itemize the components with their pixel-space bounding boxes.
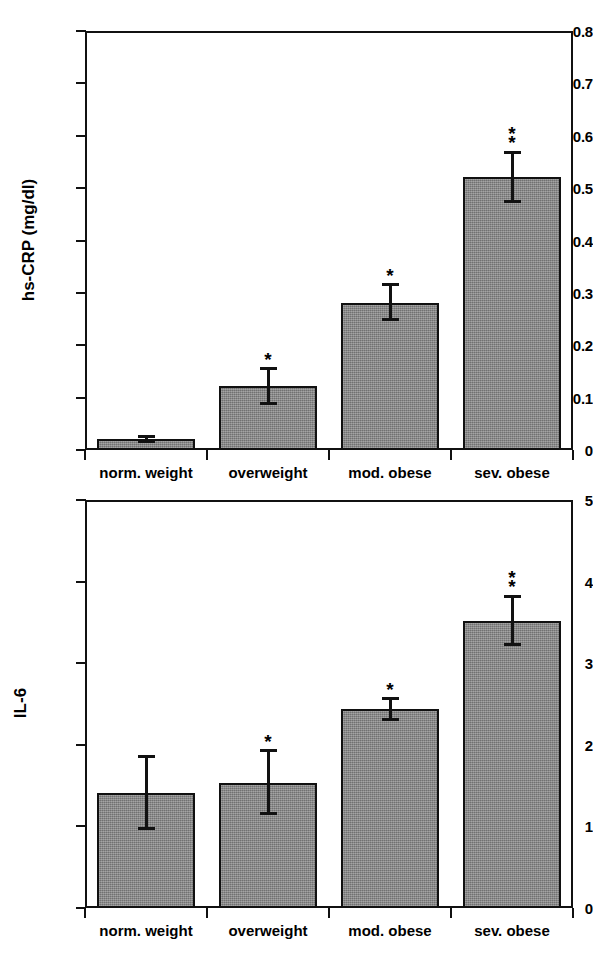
error-bar-stem — [389, 283, 392, 321]
error-bar-cap-bottom — [382, 318, 399, 321]
y-axis-label-hs-crp: hs-CRP (mg/dl) — [19, 30, 39, 449]
asterisk-icon: * — [386, 685, 393, 694]
error-bar-cap-bottom — [260, 402, 277, 405]
significance-marker: * — [386, 271, 393, 280]
significance-marker: * — [264, 737, 271, 746]
significance-marker: * — [264, 355, 271, 364]
bar — [463, 621, 561, 908]
panel-hs-crp: hs-CRP (mg/dl) 00.10.20.30.40.50.60.70.8… — [0, 0, 593, 482]
x-tick-mark — [84, 450, 86, 460]
error-bar — [500, 151, 524, 202]
x-axis-category-label: norm. weight — [99, 922, 192, 939]
x-tick-mark — [328, 450, 330, 460]
x-axis-category-label: sev. obese — [474, 464, 550, 481]
error-bar — [256, 367, 280, 405]
error-bar-stem — [267, 367, 270, 405]
error-bar-stem — [511, 595, 514, 646]
error-bar — [500, 595, 524, 646]
error-bar — [378, 697, 402, 721]
error-bar — [134, 755, 158, 831]
x-tick-mark — [328, 908, 330, 918]
asterisk-icon: * — [264, 737, 271, 746]
y-axis-label-il-6: IL-6 — [11, 499, 31, 907]
error-bar — [378, 283, 402, 321]
x-axis-category-label: overweight — [228, 922, 307, 939]
x-tick-mark — [206, 908, 208, 918]
error-bar-cap-top — [138, 435, 155, 438]
figure-two-panel-bar-charts: hs-CRP (mg/dl) 00.10.20.30.40.50.60.70.8… — [0, 0, 593, 964]
x-tick-mark — [450, 450, 452, 460]
x-tick-mark — [450, 908, 452, 918]
error-bar — [256, 749, 280, 815]
error-bar-stem — [145, 755, 148, 831]
error-bar-cap-top — [138, 755, 155, 758]
x-axis-category-label: overweight — [228, 464, 307, 481]
x-axis-category-label: sev. obese — [474, 922, 550, 939]
x-axis-category-label: norm. weight — [99, 464, 192, 481]
error-bar-stem — [511, 151, 514, 202]
significance-marker: ** — [508, 129, 515, 147]
bar — [463, 177, 561, 450]
x-tick-mark — [572, 450, 574, 460]
error-bar-cap-bottom — [138, 827, 155, 830]
error-bar-cap-bottom — [138, 440, 155, 443]
error-bar-cap-bottom — [260, 812, 277, 815]
asterisk-icon: * — [386, 271, 393, 280]
bar — [341, 303, 439, 450]
error-bar — [134, 435, 158, 443]
significance-marker: ** — [508, 573, 515, 591]
error-bar-cap-bottom — [504, 200, 521, 203]
x-axis-category-label: mod. obese — [348, 464, 431, 481]
x-axis-category-label: mod. obese — [348, 922, 431, 939]
x-tick-mark — [572, 908, 574, 918]
x-tick-mark — [84, 908, 86, 918]
asterisk-icon: * — [508, 138, 515, 147]
error-bar-stem — [267, 749, 270, 815]
asterisk-icon: * — [264, 355, 271, 364]
bar — [341, 709, 439, 908]
asterisk-icon: * — [508, 582, 515, 591]
error-bar-cap-bottom — [382, 718, 399, 721]
x-tick-mark — [206, 450, 208, 460]
significance-marker: * — [386, 685, 393, 694]
error-bar-cap-bottom — [504, 643, 521, 646]
panel-il-6: IL-6 012345 **** norm. weightoverweightm… — [0, 482, 593, 964]
